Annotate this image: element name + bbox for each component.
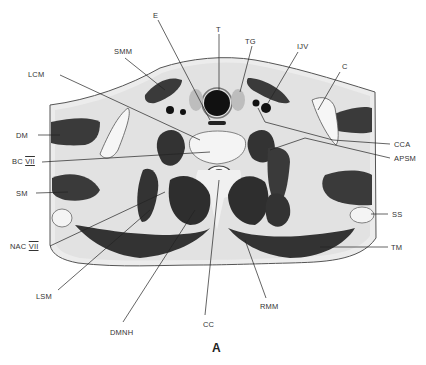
label-rhomboid-minor: RMM	[260, 302, 279, 311]
label-esophagus: E	[153, 11, 158, 20]
label-longus-colli: LCM	[28, 70, 44, 79]
label-neural-arch-c7: NAC VII	[10, 242, 39, 251]
label-trapezius: TM	[391, 243, 402, 252]
label-common-carotid-artery: CCA	[394, 140, 410, 149]
label-sternocleidomastoid: SMM	[114, 47, 132, 56]
scapular-spine-right	[350, 207, 374, 223]
internal-jugular-vein	[261, 103, 271, 113]
label-anterior-posterior-scalene: APSM	[394, 154, 416, 163]
panel-label: A	[212, 341, 221, 355]
common-carotid-artery	[253, 100, 260, 107]
label-dmnh: DMNH	[110, 328, 133, 337]
label-supraspinatus: SM	[16, 189, 28, 198]
neck-cross-section-diagram	[0, 0, 426, 365]
trachea	[204, 90, 230, 116]
label-scapular-spine: SS	[392, 210, 402, 219]
label-clavicle: C	[342, 62, 348, 71]
label-spinal-cord: CC	[203, 320, 214, 329]
label-deltoid: DM	[16, 131, 28, 140]
label-levator-scapulae: LSM	[36, 292, 52, 301]
label-trachea: T	[216, 25, 221, 34]
label-internal-jugular-vein: IJV	[297, 42, 308, 51]
deltoid-muscle-left	[51, 118, 100, 145]
label-thyroid-gland: TG	[245, 37, 256, 46]
label-body-c7: BC VII	[12, 157, 35, 166]
